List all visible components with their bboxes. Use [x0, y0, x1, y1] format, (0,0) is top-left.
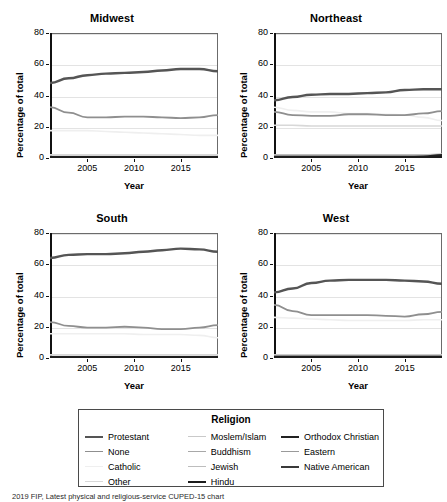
legend-column: Moslem/IslamBuddhismJewishHindu [188, 430, 281, 488]
legend-swatch-icon [85, 481, 103, 482]
legend-label: Orthodox Christian [304, 432, 379, 442]
series-lines [224, 0, 447, 200]
legend-item-other[interactable]: Other [85, 475, 188, 488]
legend-item-none[interactable]: None [85, 445, 188, 458]
series-line-protestant [274, 89, 442, 100]
series-line-jewish [274, 154, 442, 155]
legend-column: ProtestantNoneCatholicOther [85, 430, 188, 488]
legend-swatch-icon [85, 466, 103, 467]
series-line-protestant [50, 249, 218, 258]
legend-item-native-american[interactable]: Native American [281, 460, 379, 473]
legend-label: Other [108, 477, 131, 487]
legend-swatch-icon [188, 481, 206, 483]
series-line-protestant [50, 69, 218, 83]
legend-columns: ProtestantNoneCatholicOtherMoslem/IslamB… [85, 430, 379, 488]
series-line-none [50, 107, 218, 118]
series-line-protestant [274, 280, 442, 293]
series-line-none [50, 322, 218, 329]
legend-item-orthodox-christian[interactable]: Orthodox Christian [281, 430, 379, 443]
legend-item-eastern[interactable]: Eastern [281, 445, 379, 458]
legend-label: Moslem/Islam [211, 432, 267, 442]
legend-label: Catholic [108, 462, 141, 472]
legend-swatch-icon [281, 451, 299, 452]
legend-item-moslem-islam[interactable]: Moslem/Islam [188, 430, 281, 443]
legend: Religion ProtestantNoneCatholicOtherMosl… [78, 409, 384, 487]
legend-swatch-icon [188, 436, 206, 437]
legend-label: Jewish [211, 462, 239, 472]
legend-swatch-icon [281, 466, 299, 468]
series-lines [0, 0, 224, 200]
panel-south: SouthPercentage of totalYear020406080200… [0, 200, 224, 400]
legend-label: Eastern [304, 447, 335, 457]
panel-west: WestPercentage of totalYear0204060802005… [224, 200, 447, 400]
legend-swatch-icon [188, 451, 206, 452]
legend-label: Native American [304, 462, 370, 472]
legend-title: Religion [79, 414, 383, 425]
legend-item-jewish[interactable]: Jewish [188, 460, 281, 473]
panel-midwest: MidwestPercentage of totalYear0204060802… [0, 0, 224, 200]
legend-label: Hindu [211, 477, 235, 487]
series-line-none [274, 111, 442, 116]
legend-label: Protestant [108, 432, 149, 442]
legend-swatch-icon [281, 436, 299, 438]
series-line-catholic [50, 131, 218, 136]
legend-item-buddhism[interactable]: Buddhism [188, 445, 281, 458]
legend-item-protestant[interactable]: Protestant [85, 430, 188, 443]
series-line-other [274, 125, 442, 126]
figure-caption: 2019 FIP, Latest physical and religious-… [12, 492, 224, 501]
legend-item-catholic[interactable]: Catholic [85, 460, 188, 473]
series-line-catholic [50, 334, 218, 338]
legend-column: Orthodox ChristianEasternNative American [281, 430, 379, 488]
legend-label: None [108, 447, 130, 457]
panel-northeast: NortheastPercentage of totalYear02040608… [224, 0, 447, 200]
legend-swatch-icon [85, 451, 103, 452]
legend-swatch-icon [85, 436, 103, 438]
series-lines [0, 200, 224, 400]
legend-item-hindu[interactable]: Hindu [188, 475, 281, 488]
legend-swatch-icon [188, 466, 206, 467]
panel-grid: MidwestPercentage of totalYear0204060802… [0, 0, 447, 400]
series-line-none [274, 305, 442, 317]
series-lines [224, 200, 447, 400]
legend-label: Buddhism [211, 447, 251, 457]
series-line-catholic [274, 317, 442, 320]
